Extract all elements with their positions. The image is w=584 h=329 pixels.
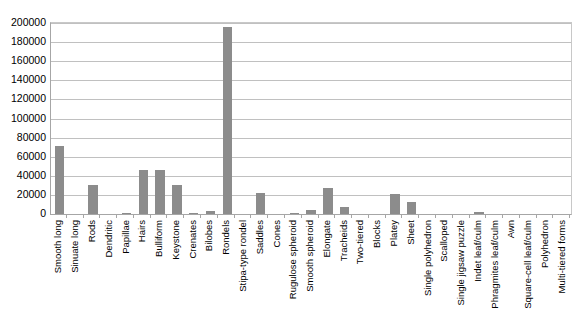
x-tick-label: Rods xyxy=(87,220,97,242)
y-tick-label: 180000 xyxy=(0,36,46,46)
y-tick-label: 200000 xyxy=(0,17,46,27)
x-tick-label: Smooth long xyxy=(53,220,63,273)
x-label-slot: Single jigsaw puzzle xyxy=(453,220,470,325)
bar-slot xyxy=(437,23,454,214)
x-tick-label: Two-tiered xyxy=(355,220,365,264)
x-tick-label: Awn xyxy=(506,220,516,238)
x-label-slot: Single polyhedron xyxy=(419,220,436,325)
x-label-slot: Platey xyxy=(386,220,403,325)
bar-slot xyxy=(353,23,370,214)
x-tick-label: Single polyhedron xyxy=(423,220,433,296)
x-label-slot: Smooth long xyxy=(50,220,67,325)
x-tick xyxy=(251,214,268,219)
bar-slot xyxy=(471,23,488,214)
x-label-slot: Rods xyxy=(84,220,101,325)
bar xyxy=(323,188,332,214)
x-tick-label: Square-cell leaf/culm xyxy=(523,220,533,309)
x-tick-label: Polyhedron xyxy=(540,220,550,268)
bar-slot xyxy=(101,23,118,214)
bar-slot xyxy=(219,23,236,214)
bar-slot xyxy=(185,23,202,214)
x-tick xyxy=(218,214,235,219)
x-tick xyxy=(470,214,487,219)
x-tick xyxy=(402,214,419,219)
bar xyxy=(390,194,399,214)
x-tick-label: Rondels xyxy=(221,220,231,255)
y-tick-label: 60000 xyxy=(0,151,46,161)
bar-slot xyxy=(236,23,253,214)
plot-area xyxy=(50,22,572,215)
y-tick-label: 20000 xyxy=(0,189,46,199)
x-tick-label: Saddles xyxy=(255,220,265,254)
bar-slot xyxy=(85,23,102,214)
x-tick-label: Multi-tiered forms xyxy=(557,220,567,293)
x-label-slot: Dendritic xyxy=(100,220,117,325)
x-tick xyxy=(537,214,554,219)
x-tick xyxy=(235,214,252,219)
x-tick-label: Single jigsaw puzzle xyxy=(456,220,466,306)
x-tick xyxy=(386,214,403,219)
y-tick-label: 140000 xyxy=(0,74,46,84)
bar-slot xyxy=(152,23,169,214)
x-label-slot: Phragmites leaf/culm xyxy=(486,220,503,325)
x-tick-label: Crenates xyxy=(188,220,198,259)
x-tick-label: Elongate xyxy=(322,220,332,258)
y-tick-label: 120000 xyxy=(0,93,46,103)
x-tick-label: Smooth spheroid xyxy=(305,220,315,292)
x-tick xyxy=(167,214,184,219)
bar-slot xyxy=(303,23,320,214)
bar xyxy=(256,193,265,214)
x-label-slot: Keystone xyxy=(167,220,184,325)
y-axis: 2000001800001600001400001200001000008000… xyxy=(0,22,46,213)
x-label-slot: Multi-tiered forms xyxy=(553,220,570,325)
x-tick-label: Indet leaf/culm xyxy=(473,220,483,282)
x-axis-ticks xyxy=(50,214,570,219)
x-tick-label: Rugulose spheroid xyxy=(288,220,298,299)
x-tick xyxy=(285,214,302,219)
x-tick xyxy=(201,214,218,219)
x-label-slot: Cones xyxy=(268,220,285,325)
x-tick xyxy=(319,214,336,219)
x-label-slot: Square-cell leaf/culm xyxy=(520,220,537,325)
bar-slot xyxy=(252,23,269,214)
x-tick xyxy=(486,214,503,219)
bar-slot xyxy=(554,23,571,214)
x-tick-label: Tracheids xyxy=(339,220,349,261)
x-tick xyxy=(302,214,319,219)
x-tick xyxy=(553,214,570,219)
bar-slot xyxy=(370,23,387,214)
bars-layer xyxy=(51,23,571,214)
bar xyxy=(155,170,164,214)
x-tick xyxy=(134,214,151,219)
x-tick xyxy=(503,214,520,219)
bar-slot xyxy=(538,23,555,214)
x-tick-label: Platey xyxy=(389,220,399,246)
x-label-slot: Blocks xyxy=(369,220,386,325)
y-tick-label: 100000 xyxy=(0,113,46,123)
bar-slot xyxy=(487,23,504,214)
x-tick-label: Keystone xyxy=(171,220,181,260)
x-tick-label: Scalloped xyxy=(439,220,449,262)
bar-slot xyxy=(420,23,437,214)
bar-slot xyxy=(68,23,85,214)
x-label-slot: Saddles xyxy=(251,220,268,325)
y-tick-label: 80000 xyxy=(0,132,46,142)
x-tick xyxy=(335,214,352,219)
x-tick-label: Papillae xyxy=(121,220,131,254)
x-label-slot: Two-tiered xyxy=(352,220,369,325)
x-tick-label: Hairs xyxy=(137,220,147,242)
x-label-slot: Rondels xyxy=(218,220,235,325)
bar-slot xyxy=(336,23,353,214)
x-tick-label: Dendritic xyxy=(104,220,114,258)
x-tick xyxy=(67,214,84,219)
x-tick-label: Stipa-type rondel xyxy=(238,220,248,292)
x-tick xyxy=(268,214,285,219)
x-label-slot: Papillae xyxy=(117,220,134,325)
bar-slot xyxy=(269,23,286,214)
bar-chart: 2000001800001600001400001200001000008000… xyxy=(0,0,584,329)
bar xyxy=(407,202,416,214)
x-tick-label: Sinuate long xyxy=(70,220,80,273)
x-label-slot: Bilobes xyxy=(201,220,218,325)
bar-slot xyxy=(286,23,303,214)
bar-slot xyxy=(135,23,152,214)
